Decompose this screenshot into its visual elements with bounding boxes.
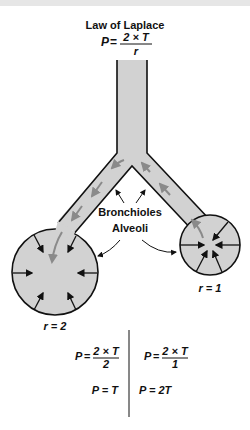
alveoli-label: Alveoli bbox=[112, 222, 148, 234]
radius-label-small: r = 1 bbox=[199, 282, 222, 294]
svg-text:P: P bbox=[75, 350, 83, 362]
svg-text:2 × T: 2 × T bbox=[161, 345, 189, 357]
svg-text:2 × T: 2 × T bbox=[92, 345, 120, 357]
bronchioles-pointers bbox=[116, 190, 145, 203]
alveolus-large bbox=[12, 221, 98, 315]
svg-text:2: 2 bbox=[102, 358, 109, 370]
svg-text:P: P bbox=[101, 35, 110, 49]
svg-text:=: = bbox=[153, 350, 159, 362]
svg-text:2 × T: 2 × T bbox=[122, 31, 150, 43]
left-formula: P = 2 × T 2 bbox=[75, 345, 120, 370]
right-result: P = 2T bbox=[139, 384, 173, 396]
radius-label-large: r = 2 bbox=[44, 320, 67, 332]
alveoli-pointers bbox=[98, 240, 176, 256]
svg-text:r: r bbox=[134, 45, 139, 57]
laplace-diagram: Law of Laplace P = 2 × T r bbox=[0, 0, 250, 430]
left-result: P = T bbox=[92, 384, 119, 396]
bronchioles-label: Bronchioles bbox=[98, 206, 162, 218]
svg-text:1: 1 bbox=[172, 358, 178, 370]
svg-text:=: = bbox=[110, 35, 117, 49]
right-formula: P = 2 × T 1 bbox=[144, 345, 189, 370]
main-formula: P = 2 × T r bbox=[101, 31, 152, 57]
svg-text:P: P bbox=[144, 350, 152, 362]
title: Law of Laplace bbox=[86, 19, 165, 31]
svg-text:=: = bbox=[84, 350, 90, 362]
alveolus-small bbox=[180, 215, 240, 275]
